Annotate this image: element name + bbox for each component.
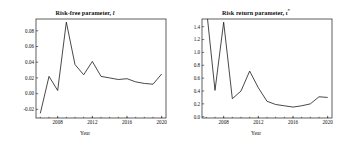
y-tick-label: 0.8 [194,62,201,68]
xaxis-label-risk-return: Year [171,130,341,136]
y-tick-label: 0.6 [194,75,201,81]
x-tick-label: 2008 [219,119,230,125]
y-tick-label: 0.08 [25,28,34,34]
y-tick-label: 0.4 [194,88,201,94]
y-tick-label: 1.4 [194,24,201,30]
y-tick-label: 0.06 [25,43,34,49]
data-series-line [40,22,161,113]
y-tick-label: 0.02 [25,75,34,81]
x-tick-label: 2016 [122,119,133,125]
x-tick-label: 2016 [288,119,299,125]
y-tick-label: 0.00 [25,90,34,96]
plot-frame [202,19,332,118]
x-tick-label: 2012 [87,119,98,125]
x-tick-label: 2020 [323,119,334,125]
y-tick-label: 0.0 [194,114,201,120]
plot-frame [36,19,166,118]
x-tick-label: 2020 [157,119,168,125]
plot-area-risk-return: 0.00.20.40.60.81.01.21.42008201220162020 [171,0,341,141]
y-tick-label: 1.2 [194,36,201,42]
y-tick-label: 1.0 [194,49,201,55]
y-tick-label: 0.04 [25,59,34,65]
chart-panel-risk-free: Risk-free parameter, l -0.020.000.020.04… [0,0,170,141]
x-tick-label: 2012 [253,119,264,125]
x-tick-label: 2008 [53,119,64,125]
y-tick-label: -0.02 [23,106,34,112]
xaxis-label-risk-free: Year [0,130,170,136]
data-series-line [206,7,327,107]
chart-panel-risk-return: Risk return parameter, ι* 0.00.20.40.60.… [171,0,341,141]
figure-canvas: Risk-free parameter, l -0.020.000.020.04… [0,0,341,141]
plot-area-risk-free: -0.020.000.020.040.060.08200820122016202… [0,0,170,141]
y-tick-label: 0.2 [194,101,201,107]
